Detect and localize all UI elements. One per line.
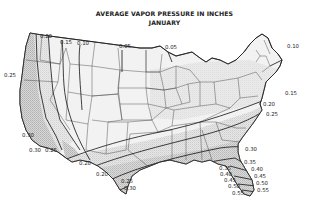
isoline-label: 0.15 [60,39,72,45]
isoline-label: 0.25 [4,72,16,78]
isoline-label: 0.05 [165,44,177,50]
isoline-label: 0.50 [228,183,241,189]
isoline-label: 0.30 [22,132,35,138]
isoline-label: 0.55 [257,187,269,193]
isoline-label: 0.45 [254,173,266,179]
isoline-label: 0.10 [287,43,300,49]
isoline-label: 0.10 [77,40,90,46]
isoline-label: 0.20 [79,160,92,166]
isoline-label: 0.30 [245,146,258,152]
isoline-label: 0.20 [96,171,109,177]
isoline-label: 0.30 [29,147,42,153]
isoline-label: 0.50 [256,180,269,186]
isoline-label: 0.35 [244,159,256,165]
isoline-label: 0.25 [266,111,278,117]
isoline-label: 0.55 [232,190,244,196]
isoline-label: 0.25 [45,147,57,153]
isoline-label: 0.20 [40,33,53,39]
isoline-label: 0.40 [251,166,264,172]
isoline-label: 0.25 [121,178,133,184]
isoline-label: 0.20 [263,101,276,107]
isoline-label: 0.05 [119,43,131,49]
isoline-label: 0.30 [124,185,137,191]
vapor-pressure-map: 0.20 0.15 0.10 0.05 0.05 0.10 0.25 0.15 … [0,0,309,208]
isoline-label: 0.15 [285,90,297,96]
